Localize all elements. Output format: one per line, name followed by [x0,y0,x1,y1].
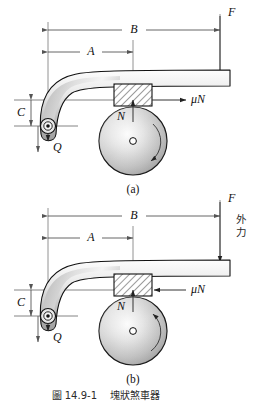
sublabel-a: (a) [127,183,140,196]
force-label-n-b: N [116,299,126,313]
pivot-center-dot-b [46,314,50,318]
sublabel-b: (b) [126,373,140,386]
force-label-q-b: Q [53,330,62,344]
dimension-label-a-a: A [86,44,95,58]
dimension-label-a-b: A [86,230,95,244]
force-label-q-a: Q [53,140,62,154]
caption-number: 圖 14.9-1 [52,390,97,401]
drum-center-hole-b [130,328,137,335]
force-label-n-a: N [116,109,126,123]
force-label-f-b: F [227,191,236,205]
dimension-label-b-b: B [130,208,138,222]
force-label-mun-b: μN [190,282,206,296]
pivot-center-dot-a [46,124,50,128]
block-brake-figure: B A F C Q [0,0,275,409]
caption-title: 塊狀煞車器 [110,389,160,401]
dimension-label-b-a: B [130,22,138,36]
force-label-mun-a: μN [190,92,206,106]
dimension-label-c-b: C [17,295,26,309]
dimension-label-c-a: C [17,105,26,119]
drum-center-hole-a [130,138,137,145]
force-label-f-a: F [227,5,236,19]
